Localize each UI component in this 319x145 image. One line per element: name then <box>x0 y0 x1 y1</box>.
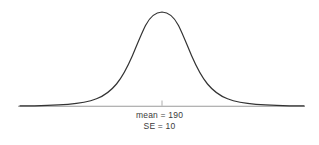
mean-label: mean = 190 <box>0 110 319 121</box>
normal-distribution-figure: mean = 190 SE = 10 <box>0 0 319 145</box>
axis-annotations: mean = 190 SE = 10 <box>0 110 319 132</box>
bell-curve-path <box>20 12 304 106</box>
se-label: SE = 10 <box>0 121 319 132</box>
